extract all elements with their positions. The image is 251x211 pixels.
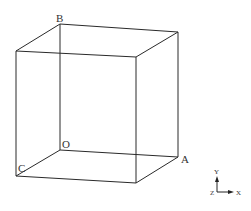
axis-triad: Y X Z <box>210 168 241 197</box>
edge-top-left <box>16 24 60 51</box>
y-axis-label: Y <box>214 168 219 176</box>
z-axis-label: Z <box>210 189 214 197</box>
edge-top-front <box>16 51 136 57</box>
edge-top-back <box>60 24 178 32</box>
x-axis-label: X <box>236 189 241 197</box>
x-axis-arrowhead-icon <box>228 190 234 194</box>
cube-diagram: B O A C Y X Z <box>0 0 251 211</box>
edge-C-front <box>16 176 136 183</box>
edge-OA <box>60 150 178 157</box>
label-O: O <box>62 138 70 150</box>
label-B: B <box>56 12 63 24</box>
y-axis-arrowhead-icon <box>215 176 219 182</box>
edge-top-right <box>136 32 178 57</box>
label-C: C <box>18 162 25 174</box>
cube-edges <box>16 24 178 183</box>
edge-A-front <box>136 157 178 183</box>
label-A: A <box>181 153 189 165</box>
